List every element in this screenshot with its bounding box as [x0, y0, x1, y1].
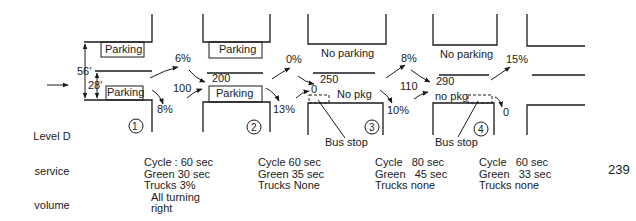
arrow-left-turn-4	[491, 67, 510, 80]
note-1-line-2: right	[144, 203, 213, 215]
bus-stop-label-4: Bus stop	[435, 137, 478, 148]
curb-label-south-2: Parking	[216, 88, 253, 99]
turn-pct-right-4: 0	[503, 107, 509, 118]
turn-pct-left-3: 8%	[401, 53, 417, 64]
left-label-line-3: volume	[16, 200, 88, 212]
turn-pct-left-4: 15%	[506, 54, 528, 65]
volume-through-4: 290	[436, 76, 454, 87]
dimension-label-28: 28′	[88, 80, 102, 91]
bus-stop-box-4	[468, 95, 492, 103]
curb-label-north-1: Parking	[105, 44, 142, 55]
intersection-number-2: 2	[251, 122, 257, 133]
curb-south-east	[527, 105, 585, 135]
arrow-right-turn-2	[266, 88, 279, 101]
volume-entering-4: 110	[400, 81, 418, 92]
trucks-2: Trucks None	[258, 180, 324, 192]
intersection-1-geometry	[84, 14, 152, 133]
cycle-3: Cycle 80 sec	[375, 157, 447, 169]
arrow-into-2-top	[189, 70, 205, 82]
right-end-geometry	[527, 14, 585, 135]
turn-pct-left-1: 6%	[175, 53, 191, 64]
turn-pct-right-3: 10%	[387, 105, 409, 116]
cycle-4: Cycle 60 sec	[479, 157, 551, 169]
curb-label-south-1: Parking	[107, 87, 144, 98]
page-number: 239	[608, 164, 630, 175]
arrow-left-turn-3	[386, 65, 405, 78]
timing-block-1: Cycle : 60 sec Green 30 sec Trucks 3% Al…	[144, 157, 213, 215]
left-label-line-1: Level D	[16, 131, 88, 143]
volume-through-3: 250	[320, 74, 338, 85]
arrow-right-turn-4	[495, 97, 502, 107]
timing-block-2: Cycle 60 sec Green 35 sec Trucks None	[258, 157, 324, 192]
intersection-number-4: 4	[478, 124, 484, 135]
bus-stop-leader-3	[318, 100, 345, 138]
timing-block-3: Cycle 80 sec Green 45 sec Trucks none	[375, 157, 447, 192]
volume-through-2: 200	[212, 73, 230, 84]
dimension-label-56: 56′	[77, 66, 91, 77]
curb-label-south-4: no pkg	[435, 91, 468, 102]
arrow-left-turn-2	[272, 68, 290, 79]
cycle-2: Cycle 60 sec	[258, 157, 324, 169]
arrow-right-turn-1	[152, 90, 163, 104]
curb-north-east	[527, 14, 585, 46]
trucks-3: Trucks none	[375, 180, 447, 192]
volume-entering-2: 100	[173, 83, 191, 94]
curb-label-north-4: No parking	[440, 49, 493, 60]
left-label-line-2: service	[16, 166, 88, 178]
arrow-left-turn-1	[150, 67, 178, 78]
curb-north-4	[433, 14, 497, 45]
curb-label-north-3: No parking	[321, 48, 374, 59]
trucks-4: Trucks none	[479, 180, 551, 192]
turn-pct-left-2: 0%	[286, 54, 302, 65]
curb-north-3	[308, 14, 386, 44]
timing-block-4: Cycle 60 sec Green 33 sec Trucks none	[479, 157, 551, 192]
arrow-into-3-bottom	[296, 91, 309, 98]
intersection-number-3: 3	[369, 122, 375, 133]
bus-stop-label-3: Bus stop	[325, 137, 368, 148]
arrow-right-turn-3	[380, 90, 392, 103]
curb-label-north-2: Parking	[219, 44, 256, 55]
cycle-1: Cycle : 60 sec	[144, 157, 213, 169]
arrow-into-4-bottom	[414, 92, 428, 99]
curb-north-west-1	[84, 14, 152, 42]
curb-north-2	[203, 14, 270, 42]
trucks-1: Trucks 3%	[144, 180, 213, 192]
curb-label-south-3: No pkg	[337, 89, 372, 100]
turn-pct-right-1: 8%	[157, 104, 173, 115]
volume-entering-3: 0	[311, 84, 317, 95]
intersection-number-1: 1	[132, 121, 138, 132]
turn-pct-right-2: 13%	[273, 104, 295, 115]
